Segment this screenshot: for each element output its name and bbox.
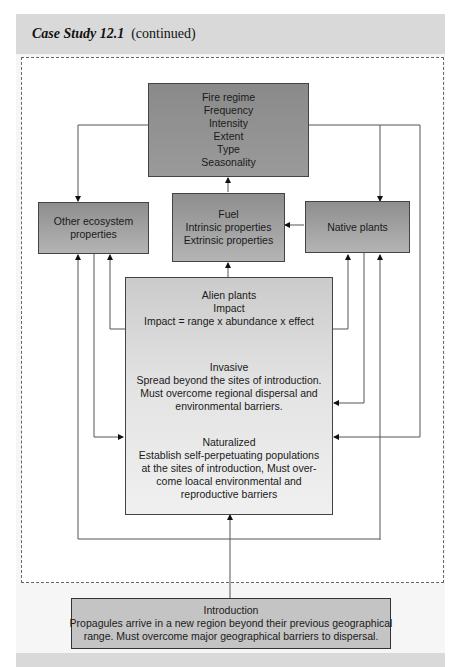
invasive-stage: Invasive Spread beyond the sites of intr… [136,361,321,413]
naturalized-line-3: come loacal environmental and [139,475,319,488]
fire-regime-extent: Extent [214,130,244,143]
fire-regime-seasonality: Seasonality [201,156,255,169]
alien-plants-box: Alien plants Impact Impact = range x abu… [125,277,333,515]
other-ecosystem-box: Other ecosystem properties [38,202,149,254]
naturalized-title: Naturalized [139,436,319,449]
introduction-box: Introduction Propagules arrive in a new … [71,598,391,649]
other-ecosystem-label-1: Other ecosystem [54,215,133,228]
invasive-line-2: Must overcome regional dispersal and [136,387,321,400]
invasive-line-1: Spread beyond the sites of introduction. [136,374,321,387]
impact-formula: Impact = range x abundance x effect [144,315,314,328]
other-ecosystem-label-2: properties [70,228,117,241]
fire-regime-title: Fire regime [202,91,255,104]
introduction-title: Introduction [204,604,259,617]
naturalized-line-4: reproductive barriers [139,488,319,501]
fire-regime-type: Type [217,143,240,156]
native-plants-label: Native plants [327,221,388,234]
introduction-line-2: range. Must overcome major geographical … [84,630,379,643]
fuel-extrinsic: Extrinsic properties [184,234,273,247]
fire-regime-frequency: Frequency [204,104,254,117]
naturalized-line-1: Establish self-perpetuating populations [139,449,319,462]
fuel-intrinsic: Intrinsic properties [186,221,272,234]
invasive-line-3: environmental barriers. [136,400,321,413]
introduction-line-1: Propagules arrive in a new region beyond… [70,617,393,630]
native-plants-box: Native plants [305,201,410,253]
fire-regime-intensity: Intensity [209,117,248,130]
naturalized-line-2: at the sites of introduction, Must over- [139,462,319,475]
fuel-box: Fuel Intrinsic properties Extrinsic prop… [172,193,285,262]
fuel-title: Fuel [218,208,238,221]
naturalized-stage: Naturalized Establish self-perpetuating … [139,436,319,501]
fire-regime-box: Fire regime Frequency Intensity Extent T… [148,83,309,177]
invasive-title: Invasive [136,361,321,374]
impact-title: Impact [144,302,314,315]
impact-stage: Alien plants Impact Impact = range x abu… [144,289,314,328]
alien-plants-title: Alien plants [144,289,314,302]
